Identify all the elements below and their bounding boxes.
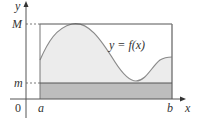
y-axis-label: y [14, 0, 21, 13]
lower-rectangle-m [40, 83, 172, 99]
max-label: M [11, 17, 23, 31]
y-axis-arrow-icon [24, 1, 29, 7]
area-under-curve [40, 24, 172, 83]
b-label: b [167, 101, 173, 115]
function-label: y = f(x) [108, 38, 145, 52]
origin-label: 0 [15, 101, 21, 115]
x-axis-label: x [184, 101, 191, 115]
a-label: a [38, 101, 44, 115]
min-label: m [14, 76, 23, 90]
integral-bounds-diagram: y M m 0 a b x y = f(x) [0, 0, 202, 125]
